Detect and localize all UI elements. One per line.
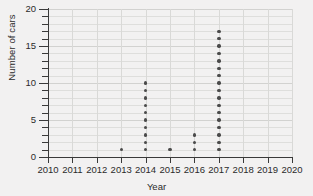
x-tick bbox=[121, 157, 122, 163]
x-tick bbox=[72, 157, 73, 163]
gridline-vertical bbox=[243, 9, 244, 157]
data-dot bbox=[144, 118, 147, 121]
x-tick bbox=[268, 157, 269, 163]
x-tick bbox=[146, 157, 147, 163]
gridline-vertical bbox=[97, 9, 98, 157]
y-tick-minor bbox=[42, 31, 48, 32]
data-dot bbox=[217, 67, 220, 70]
data-dot bbox=[144, 96, 147, 99]
y-tick-minor bbox=[42, 53, 48, 54]
data-dot bbox=[144, 141, 147, 144]
y-tick-major bbox=[39, 46, 48, 47]
x-tick-label: 2020 bbox=[277, 164, 307, 175]
y-axis-line bbox=[48, 8, 49, 158]
data-dot bbox=[168, 148, 171, 151]
data-dot bbox=[217, 37, 220, 40]
x-tick bbox=[170, 157, 171, 163]
dot-plot-chart: 05101520 2010201120122013201420152016201… bbox=[0, 0, 313, 196]
data-dot bbox=[217, 141, 220, 144]
y-tick-major bbox=[39, 120, 48, 121]
y-tick-minor bbox=[42, 142, 48, 143]
y-tick-minor bbox=[42, 76, 48, 77]
data-dot bbox=[217, 89, 220, 92]
data-dot bbox=[217, 118, 220, 121]
y-tick-major bbox=[39, 157, 48, 158]
y-tick-minor bbox=[42, 105, 48, 106]
data-dot bbox=[144, 133, 147, 136]
data-dot bbox=[217, 104, 220, 107]
gridline-vertical bbox=[72, 9, 73, 157]
data-dot bbox=[144, 81, 147, 84]
y-tick-label: 0 bbox=[2, 151, 36, 162]
gridline-vertical bbox=[268, 9, 269, 157]
y-tick-minor bbox=[42, 90, 48, 91]
y-tick-minor bbox=[42, 150, 48, 151]
data-dot bbox=[144, 126, 147, 129]
gridline-vertical bbox=[292, 9, 293, 157]
x-tick bbox=[48, 157, 49, 163]
y-tick-minor bbox=[42, 24, 48, 25]
y-tick-minor bbox=[42, 16, 48, 17]
x-axis-title: Year bbox=[0, 181, 313, 192]
y-tick-minor bbox=[42, 135, 48, 136]
data-dot bbox=[193, 133, 196, 136]
data-dot bbox=[217, 74, 220, 77]
data-dot bbox=[217, 52, 220, 55]
y-tick-minor bbox=[42, 113, 48, 114]
x-tick bbox=[194, 157, 195, 163]
data-dot bbox=[144, 148, 147, 151]
gridline-vertical bbox=[121, 9, 122, 157]
data-dot bbox=[217, 59, 220, 62]
data-dot bbox=[217, 133, 220, 136]
data-dot bbox=[193, 148, 196, 151]
x-tick bbox=[219, 157, 220, 163]
x-tick bbox=[243, 157, 244, 163]
y-tick-major bbox=[39, 83, 48, 84]
data-dot bbox=[144, 104, 147, 107]
data-dot bbox=[217, 96, 220, 99]
data-dot bbox=[193, 141, 196, 144]
y-tick-minor bbox=[42, 68, 48, 69]
gridline-vertical bbox=[170, 9, 171, 157]
data-dot bbox=[217, 44, 220, 47]
y-tick-minor bbox=[42, 61, 48, 62]
data-dot bbox=[217, 148, 220, 151]
data-dot bbox=[217, 126, 220, 129]
data-dot bbox=[120, 148, 123, 151]
y-tick-minor bbox=[42, 127, 48, 128]
plot-area bbox=[48, 9, 292, 157]
x-tick bbox=[292, 157, 293, 163]
data-dot bbox=[217, 111, 220, 114]
data-dot bbox=[144, 89, 147, 92]
x-tick bbox=[97, 157, 98, 163]
y-axis-title: Number of cars bbox=[6, 0, 17, 103]
data-dot bbox=[217, 30, 220, 33]
y-tick-minor bbox=[42, 98, 48, 99]
y-tick-minor bbox=[42, 39, 48, 40]
data-dot bbox=[217, 81, 220, 84]
y-tick-label: 5 bbox=[2, 114, 36, 125]
data-dot bbox=[144, 111, 147, 114]
y-tick-major bbox=[39, 9, 48, 10]
